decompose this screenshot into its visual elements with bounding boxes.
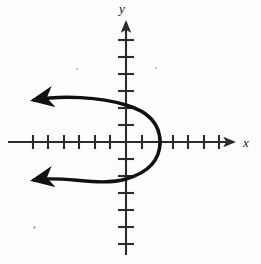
y-axis-label: y bbox=[119, 2, 125, 15]
scan-speck bbox=[76, 68, 78, 70]
coordinate-plane bbox=[0, 0, 261, 264]
scan-speck bbox=[155, 67, 157, 69]
scan-speck bbox=[33, 226, 36, 229]
y-axis-group bbox=[118, 22, 134, 255]
x-axis-group bbox=[8, 135, 234, 149]
x-axis-label: x bbox=[243, 136, 249, 149]
graph-figure: x y bbox=[0, 0, 261, 264]
